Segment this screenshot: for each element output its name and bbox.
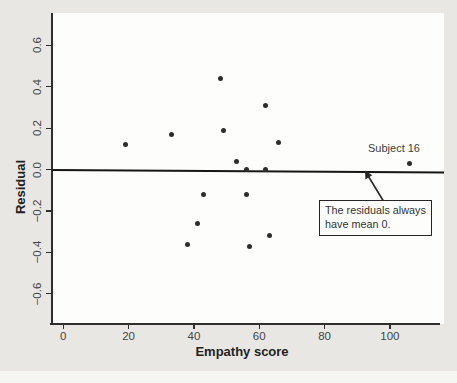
residual-plot-figure: 0204060801000.60.40.20.0−0.2−0.4−0.6 Emp… <box>0 0 457 383</box>
callout-box: The residuals always have mean 0. <box>319 200 432 236</box>
y-tick-label: −0.4 <box>31 241 43 264</box>
y-tick-label: 0.6 <box>31 37 43 53</box>
data-point <box>195 221 200 226</box>
x-axis-line <box>50 323 440 325</box>
data-point <box>244 192 249 197</box>
x-tick-mark <box>259 324 260 329</box>
x-tick-label: 40 <box>188 330 201 342</box>
y-tick-mark <box>46 210 51 211</box>
y-tick-mark <box>46 293 51 294</box>
data-point <box>218 76 223 81</box>
data-point <box>185 242 190 247</box>
x-tick-mark <box>324 324 325 329</box>
data-point <box>407 161 412 166</box>
x-tick-mark <box>63 324 64 329</box>
data-point <box>267 233 272 238</box>
y-tick-mark <box>46 169 51 170</box>
y-tick-mark <box>46 86 51 87</box>
x-tick-label: 0 <box>60 330 66 342</box>
x-tick-mark <box>128 324 129 329</box>
y-axis-title: Residual <box>13 160 28 214</box>
data-point <box>221 128 226 133</box>
y-tick-mark <box>46 252 51 253</box>
y-tick-label: 0.4 <box>31 79 43 95</box>
y-tick-mark <box>46 128 51 129</box>
x-tick-label: 100 <box>380 330 399 342</box>
callout-text-line1: The residuals always <box>325 204 426 216</box>
x-tick-mark <box>193 324 194 329</box>
y-tick-label: 0.2 <box>31 120 43 136</box>
y-tick-label: −0.2 <box>31 200 43 223</box>
data-point <box>169 132 174 137</box>
x-tick-label: 80 <box>318 330 331 342</box>
subject-16-label: Subject 16 <box>368 142 420 154</box>
y-tick-label: 0.0 <box>31 162 43 178</box>
x-tick-label: 20 <box>122 330 135 342</box>
x-tick-mark <box>389 324 390 329</box>
data-point <box>234 159 239 164</box>
data-point <box>123 142 128 147</box>
page-margin <box>0 371 457 383</box>
data-point <box>247 244 252 249</box>
y-tick-mark <box>46 45 51 46</box>
data-point <box>244 167 249 172</box>
x-axis-title: Empathy score <box>195 344 288 359</box>
callout-text-line2: have mean 0. <box>325 218 390 230</box>
x-tick-label: 60 <box>253 330 266 342</box>
y-tick-label: −0.6 <box>31 282 43 305</box>
